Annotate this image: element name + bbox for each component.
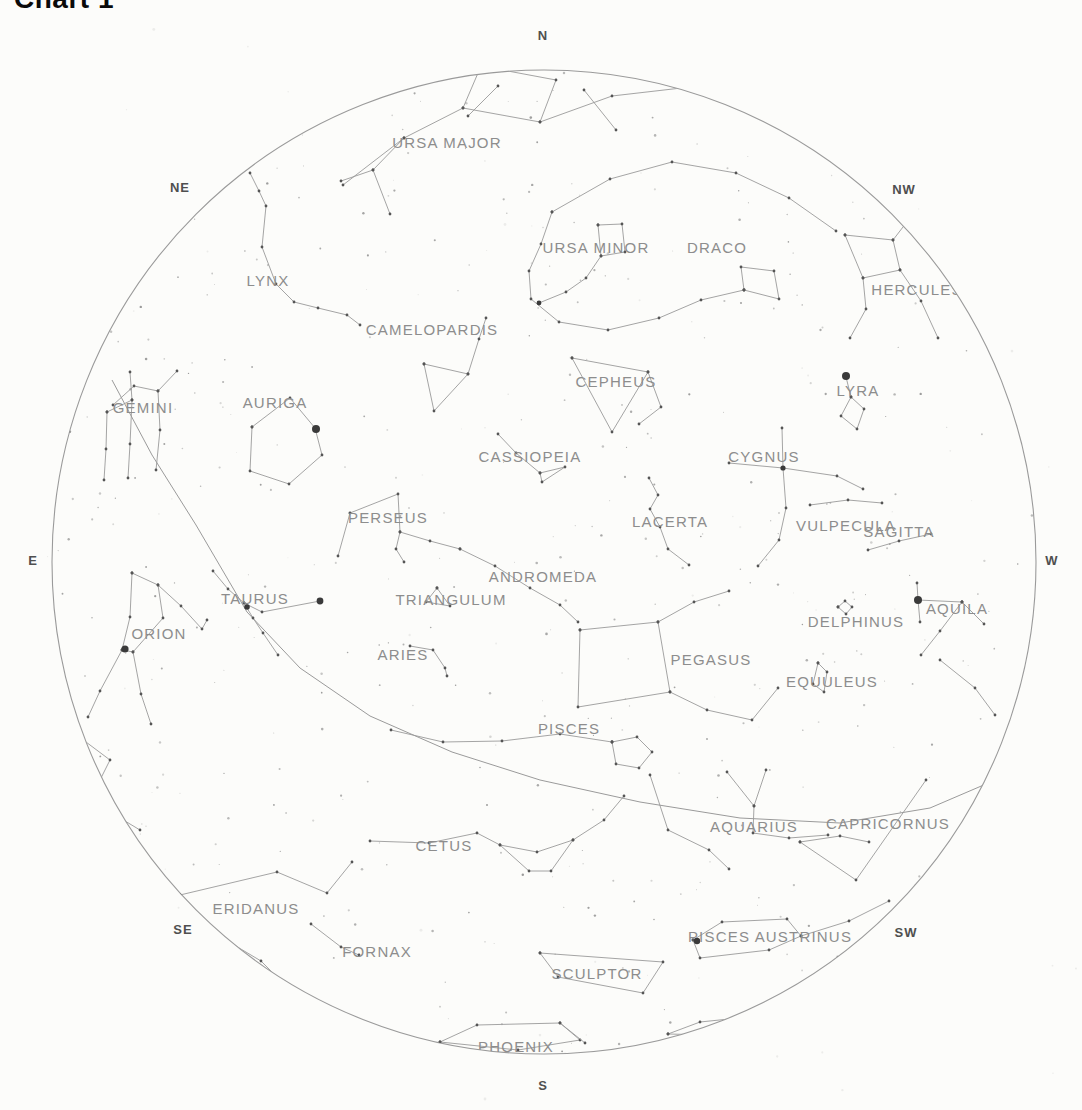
background-star (140, 834, 141, 835)
star-dot (129, 616, 132, 619)
background-star (801, 367, 802, 368)
star-dot (559, 604, 562, 607)
background-star (367, 781, 369, 783)
background-star (757, 905, 758, 906)
star-dot (480, 65, 483, 68)
constellation-lines (560, 1023, 585, 1043)
constellation-lines (810, 500, 882, 505)
star-dot (740, 266, 743, 269)
background-star (163, 358, 165, 360)
star-dot (939, 659, 942, 662)
background-star (494, 943, 495, 944)
star-dot (584, 1042, 587, 1045)
star-dot (462, 107, 465, 110)
star-dot (765, 769, 768, 772)
background-star (669, 1021, 672, 1024)
constellation-lines (729, 463, 863, 489)
background-star (571, 1043, 572, 1044)
compass-label-n: N (538, 28, 548, 43)
star-dot (459, 548, 462, 551)
background-star (215, 843, 217, 845)
background-star (207, 294, 208, 295)
background-star (588, 718, 589, 719)
background-star (134, 477, 136, 479)
background-star (414, 92, 416, 94)
background-star (537, 307, 539, 309)
background-star (826, 503, 827, 504)
background-star (652, 117, 654, 119)
background-star (521, 419, 522, 420)
background-star (468, 264, 470, 266)
background-star (726, 167, 728, 169)
constellation-label-camelopardis: CAMELOPARDIS (366, 321, 498, 338)
star-dot (541, 481, 544, 484)
background-star (591, 526, 593, 528)
constellation-label-cetus: CETUS (416, 837, 473, 854)
background-star (583, 863, 584, 864)
background-star (624, 476, 626, 478)
background-star (174, 582, 175, 583)
background-star (223, 773, 224, 774)
background-star (117, 341, 119, 343)
background-star (980, 718, 982, 720)
paper-speck (739, 526, 741, 528)
background-star (561, 672, 563, 674)
constellation-label-pisces: PISCES (538, 720, 600, 737)
background-star (924, 639, 925, 640)
paper-speck (178, 907, 180, 909)
star-dot (851, 606, 854, 609)
background-star (229, 892, 230, 893)
star-dot (478, 338, 481, 341)
star-dot (937, 337, 940, 340)
background-star (484, 427, 485, 428)
constellation-lines (670, 688, 778, 720)
star-dot (127, 477, 130, 480)
background-star (196, 626, 198, 628)
star-dot (609, 178, 612, 181)
background-star (893, 747, 894, 748)
constellation-label-aquila: AQUILA (926, 600, 988, 617)
constellation-label-draco: DRACO (687, 239, 747, 256)
background-star (909, 575, 910, 576)
star-dot (855, 879, 858, 882)
constellation-label-sculptor: SCULPTOR (551, 965, 642, 982)
star-dot (258, 190, 261, 193)
background-star (99, 755, 101, 757)
background-star (550, 629, 551, 630)
background-star (179, 793, 180, 794)
star-dot (260, 960, 263, 963)
background-star (99, 492, 101, 494)
background-star (740, 568, 742, 570)
background-star (738, 219, 741, 222)
background-star (654, 603, 655, 604)
background-star (145, 566, 147, 568)
background-star (680, 893, 682, 895)
star-dot (796, 98, 799, 101)
star-dot (340, 180, 343, 183)
star-dot (621, 223, 624, 226)
star-dot (868, 841, 871, 844)
constellation-label-cassiopeia: CASSIOPEIA (479, 448, 582, 465)
star-dot (777, 687, 780, 690)
background-star (108, 749, 110, 751)
background-star (439, 558, 440, 559)
background-star (633, 900, 635, 902)
paper-speck (971, 500, 972, 501)
compass-label-nw: NW (892, 182, 916, 197)
background-star (758, 897, 759, 898)
background-star (238, 627, 239, 628)
background-star (754, 684, 756, 686)
background-star (681, 567, 684, 570)
constellation-label-aquarius: AQUARIUS (710, 818, 798, 835)
background-star (220, 402, 222, 404)
background-star (314, 564, 315, 565)
star-dot (651, 751, 654, 754)
background-star (831, 175, 832, 176)
star-dot (162, 617, 165, 620)
star-dot (577, 621, 580, 624)
background-star (387, 195, 389, 197)
background-star (91, 518, 93, 520)
background-star (391, 114, 393, 116)
star-dot (667, 548, 670, 551)
background-star (152, 792, 153, 793)
